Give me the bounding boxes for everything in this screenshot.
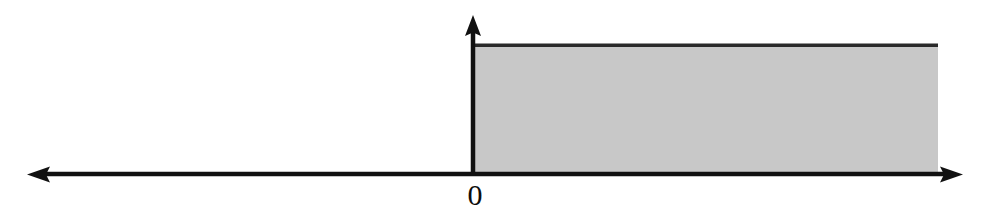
shaded-region-fill <box>475 46 938 173</box>
shaded-region-top-edge <box>475 44 938 48</box>
figure-canvas: 0 <box>0 0 989 221</box>
shaded-region-group <box>475 44 938 174</box>
origin-tick-label: 0 <box>455 180 495 210</box>
